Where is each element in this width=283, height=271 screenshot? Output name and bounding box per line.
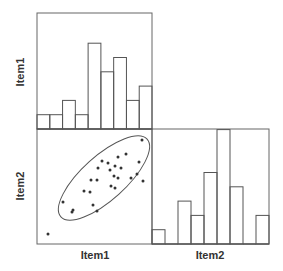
scatter-point xyxy=(96,179,99,182)
histogram-bar xyxy=(256,215,269,244)
scatter-point xyxy=(96,210,99,213)
scatter-point xyxy=(117,156,120,159)
panel-item1-histogram-frame xyxy=(37,13,152,129)
scatter-point xyxy=(114,165,117,168)
histogram-bar xyxy=(204,173,217,245)
row-label-item1: Item1 xyxy=(14,58,26,87)
scatter-point xyxy=(109,169,112,172)
histogram-bar xyxy=(37,115,50,129)
histogram-bar xyxy=(217,130,230,244)
col-label-item2: Item2 xyxy=(196,249,225,261)
histogram-bar xyxy=(126,100,139,129)
scatter-point xyxy=(107,162,110,165)
scatter-point xyxy=(141,139,144,142)
scatter-point xyxy=(62,201,65,204)
scatter-point xyxy=(136,173,139,176)
scatter-point xyxy=(47,233,50,236)
scatter-point xyxy=(101,160,104,163)
scatter-point xyxy=(89,191,92,194)
histogram-bar xyxy=(63,100,76,129)
scatter-point xyxy=(92,204,95,207)
scatter-point xyxy=(114,187,117,190)
confidence-ellipse xyxy=(46,123,162,233)
scatter-point xyxy=(90,179,93,182)
scatter-point xyxy=(130,177,133,180)
scatter-point xyxy=(120,167,123,170)
row-label-item2: Item2 xyxy=(14,172,26,201)
scatter-point xyxy=(83,190,86,193)
item1-item2-scatter xyxy=(46,123,162,236)
histogram-bar xyxy=(178,201,191,244)
col-label-item1: Item1 xyxy=(81,249,110,261)
histogram-bar xyxy=(230,187,243,244)
histogram-bar xyxy=(88,43,101,129)
histogram-bar xyxy=(191,215,204,244)
scatter-point xyxy=(125,153,128,156)
scatter-point xyxy=(113,175,116,178)
scatter-point xyxy=(142,180,145,183)
histogram-bar xyxy=(114,58,127,130)
histogram-bar xyxy=(50,115,63,129)
histogram-bar xyxy=(101,72,114,129)
item2-histogram xyxy=(152,130,269,244)
panel-item2-histogram-frame xyxy=(152,129,269,244)
scatter-point xyxy=(117,177,120,180)
histogram-bar xyxy=(152,230,165,244)
histogram-bar xyxy=(139,86,152,129)
item1-histogram xyxy=(37,43,152,129)
histogram-bar xyxy=(75,115,88,129)
scatter-point xyxy=(71,211,74,214)
scatter-point xyxy=(110,185,113,188)
scatter-point xyxy=(138,161,141,164)
scatter-matrix-chart: Item1 Item2 Item1 Item2 xyxy=(0,0,283,271)
scatter-point xyxy=(97,167,100,170)
panel-scatter-frame xyxy=(37,129,152,244)
